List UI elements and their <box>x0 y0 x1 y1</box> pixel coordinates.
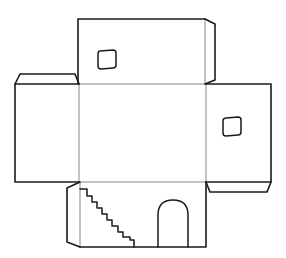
glue-tab-left-top <box>15 74 79 84</box>
bottom-wall-panel <box>67 182 206 247</box>
top-wall-panel <box>78 19 215 84</box>
arched-door-icon <box>158 200 188 247</box>
glue-tab-top-right <box>205 19 215 84</box>
center-roof-panel <box>79 84 206 182</box>
left-wall-panel <box>15 74 79 182</box>
glue-tab-right-bottom <box>206 182 271 192</box>
square-window-icon <box>223 117 241 136</box>
box-net-diagram <box>0 0 286 258</box>
right-wall-panel <box>206 84 271 192</box>
staircase-icon <box>80 189 134 247</box>
glue-tab-bottom-left <box>67 182 80 247</box>
square-window-icon <box>98 50 116 69</box>
